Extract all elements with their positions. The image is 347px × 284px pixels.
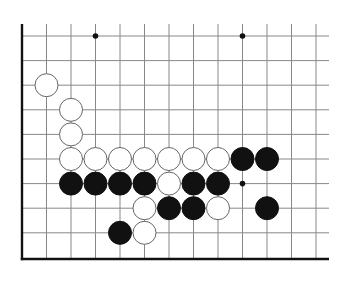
white-stone (133, 221, 156, 244)
black-stone (256, 197, 279, 220)
white-stone (207, 148, 230, 171)
white-stone (60, 123, 83, 146)
hoshi-point (93, 33, 99, 39)
white-stone (182, 148, 205, 171)
white-stone (109, 148, 132, 171)
black-stone (109, 172, 132, 195)
white-stone (84, 148, 107, 171)
black-stone (109, 221, 132, 244)
white-stone (133, 197, 156, 220)
white-stone (207, 197, 230, 220)
white-stone (35, 74, 58, 97)
black-stone (256, 148, 279, 171)
hoshi-point (240, 33, 246, 39)
hoshi-point (240, 181, 246, 187)
white-stone (158, 148, 181, 171)
white-stone (133, 148, 156, 171)
go-board (0, 0, 347, 284)
black-stone (207, 172, 230, 195)
black-stone (133, 172, 156, 195)
white-stone (60, 98, 83, 121)
black-stone (182, 197, 205, 220)
black-stone (84, 172, 107, 195)
black-stone (231, 148, 254, 171)
white-stone (158, 172, 181, 195)
white-stone (60, 148, 83, 171)
black-stone (60, 172, 83, 195)
black-stone (182, 172, 205, 195)
black-stone (158, 197, 181, 220)
